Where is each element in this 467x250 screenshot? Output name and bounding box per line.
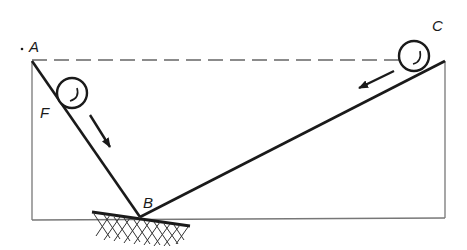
ball-C xyxy=(399,41,429,71)
label-F: F xyxy=(40,104,50,121)
ball-F xyxy=(57,78,87,108)
incline-AB xyxy=(32,61,140,217)
arrow-down-CB-icon xyxy=(359,71,394,88)
label-C: C xyxy=(432,17,443,34)
label-B: B xyxy=(143,194,153,211)
arrow-down-AB-icon xyxy=(90,115,110,147)
frame xyxy=(32,61,445,220)
incline-CB xyxy=(140,61,445,217)
inclined-planes-diagram: A F B C xyxy=(0,0,467,250)
point-dot-A xyxy=(21,48,24,51)
label-A: A xyxy=(28,38,39,55)
